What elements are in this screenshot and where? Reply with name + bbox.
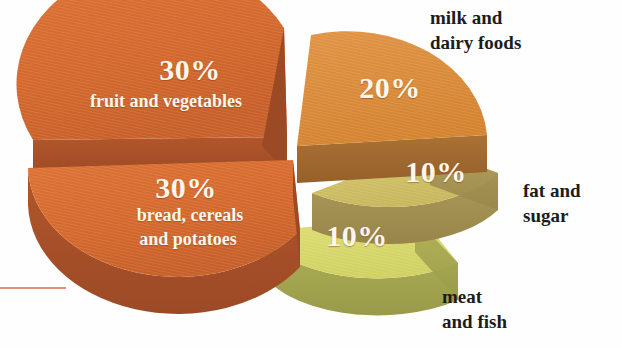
outer-label-milk-and-dairy-foods: milk and dairy foods bbox=[430, 5, 521, 55]
slice-label-bread-cereals-line2: and potatoes bbox=[139, 229, 237, 250]
pie-slice-fruit-and-vegetables bbox=[16, 0, 287, 176]
slice-label-fruit-and-vegetables: fruit and vegetables bbox=[90, 91, 242, 112]
slice-value-bread-cereals-and-potatoes: 30% bbox=[155, 171, 217, 205]
outer-label-meat-line2: and fish bbox=[442, 309, 507, 334]
slice-value-fat-and-sugar: 10% bbox=[405, 155, 467, 189]
outer-label-fat-line2: sugar bbox=[523, 203, 581, 228]
left-edge-rule bbox=[0, 287, 66, 289]
pie-chart-figure: 30% fruit and vegetables 30% bread, cere… bbox=[0, 0, 622, 348]
slice-value-meat-and-fish: 10% bbox=[326, 219, 388, 253]
outer-label-meat-and-fish: meat and fish bbox=[442, 284, 507, 334]
outer-label-fat-line1: fat and bbox=[523, 178, 581, 203]
slice-label-bread-cereals-line1: bread, cereals bbox=[137, 205, 243, 226]
outer-label-fat-and-sugar: fat and sugar bbox=[523, 178, 581, 228]
outer-label-meat-line1: meat bbox=[442, 284, 507, 309]
slice-value-fruit-and-vegetables: 30% bbox=[159, 53, 221, 87]
outer-label-milk-line1: milk and bbox=[430, 5, 521, 30]
slice-value-milk-and-dairy-foods: 20% bbox=[359, 71, 421, 105]
pie-chart-graphic bbox=[0, 0, 622, 348]
outer-label-milk-line2: dairy foods bbox=[430, 30, 521, 55]
pie-slice-fruit-and-vegetables-texture bbox=[16, 0, 287, 140]
